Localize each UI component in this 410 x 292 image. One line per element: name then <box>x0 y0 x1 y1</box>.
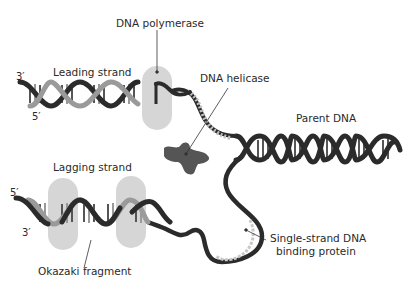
dna-replication-diagram: DNA polymerase Leading strand DNA helica… <box>0 0 410 292</box>
label-dna-polymerase: DNA polymerase <box>116 17 204 29</box>
helicase-protein <box>164 142 209 174</box>
label-dna-helicase: DNA helicase <box>200 72 270 84</box>
lagging-strand-helix <box>16 176 170 250</box>
label-leading-3prime: 3′ <box>16 71 25 82</box>
label-leading-5prime: 5′ <box>32 111 41 122</box>
label-ssb-line1: Single-strand DNA <box>270 232 367 244</box>
dna-polymerase-leading <box>142 66 190 130</box>
label-leading-strand: Leading strand <box>53 66 131 78</box>
leading-strand-helix <box>20 82 138 106</box>
label-lagging-strand: Lagging strand <box>53 161 132 173</box>
label-parent-dna: Parent DNA <box>296 112 357 124</box>
parent-dna-helix <box>236 136 400 162</box>
label-lagging-5prime: 5′ <box>10 187 19 198</box>
label-okazaki-fragment: Okazaki fragment <box>38 265 131 277</box>
label-lagging-3prime: 3′ <box>22 227 31 238</box>
label-ssb-line2: binding protein <box>276 245 356 257</box>
lagging-template-strand <box>148 158 262 262</box>
